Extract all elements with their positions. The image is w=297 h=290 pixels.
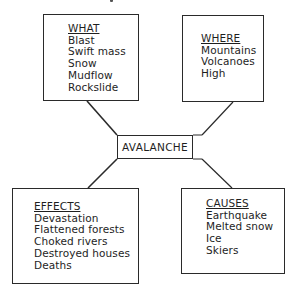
causes-content: CAUSES Earthquake Melted snow Ice Skiers bbox=[206, 198, 273, 257]
where-heading: WHERE bbox=[201, 33, 256, 45]
effects-content: EFFECTS Devastation Flattened forests Ch… bbox=[34, 201, 130, 271]
what-item: Rockslide bbox=[68, 82, 126, 94]
effects-item: Destroyed houses bbox=[34, 248, 130, 260]
causes-heading: CAUSES bbox=[206, 198, 273, 210]
connector-causes bbox=[202, 159, 232, 188]
effects-item: Deaths bbox=[34, 260, 130, 272]
causes-item: Skiers bbox=[206, 245, 273, 257]
connector-effects bbox=[88, 159, 117, 188]
where-box: WHERE Mountains Volcanoes High bbox=[182, 15, 264, 102]
effects-box: EFFECTS Devastation Flattened forests Ch… bbox=[12, 188, 139, 284]
connector-what bbox=[87, 101, 117, 135]
effects-heading: EFFECTS bbox=[34, 201, 130, 213]
where-content: WHERE Mountains Volcanoes High bbox=[201, 33, 256, 80]
what-item: Mudflow bbox=[68, 70, 126, 82]
center-topic-box: AVALANCHE bbox=[117, 135, 193, 159]
what-box: WHAT Blast Swift mass Snow Mudflow Rocks… bbox=[43, 14, 139, 101]
causes-box: CAUSES Earthquake Melted snow Ice Skiers bbox=[181, 188, 285, 274]
what-heading: WHAT bbox=[68, 23, 126, 35]
where-item: High bbox=[201, 68, 256, 80]
what-content: WHAT Blast Swift mass Snow Mudflow Rocks… bbox=[68, 23, 126, 93]
center-topic-label: AVALANCHE bbox=[122, 141, 188, 153]
connector-where bbox=[202, 102, 233, 135]
